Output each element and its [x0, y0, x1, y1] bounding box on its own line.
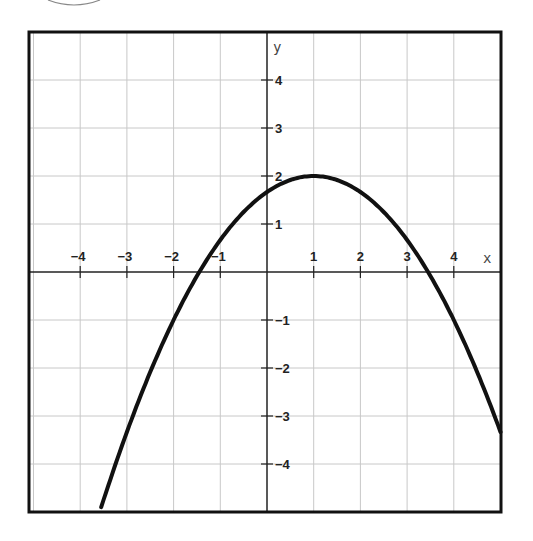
x-tick-label: 2 — [357, 249, 364, 264]
x-tick-label: −4 — [71, 249, 87, 264]
x-tick-label: 1 — [310, 249, 317, 264]
x-tick-label: −3 — [117, 249, 132, 264]
x-tick-label: 4 — [450, 249, 458, 264]
x-tick-label: 3 — [403, 249, 410, 264]
decorative-arc — [48, 0, 100, 5]
x-axis-label: x — [483, 250, 491, 266]
parabola-curve — [101, 176, 500, 507]
y-axis-label: y — [273, 39, 281, 55]
y-tick-label: −3 — [275, 409, 290, 424]
y-tick-label: 3 — [275, 121, 282, 136]
x-tick-label: −2 — [164, 249, 179, 264]
y-tick-label: −2 — [275, 361, 290, 376]
y-tick-label: 4 — [275, 73, 283, 88]
parabola-graph: −4−3−2−11234−4−3−2−11234 x y — [0, 0, 533, 541]
y-tick-label: −1 — [275, 313, 290, 328]
y-tick-label: 1 — [275, 217, 282, 232]
y-tick-label: −4 — [275, 457, 291, 472]
